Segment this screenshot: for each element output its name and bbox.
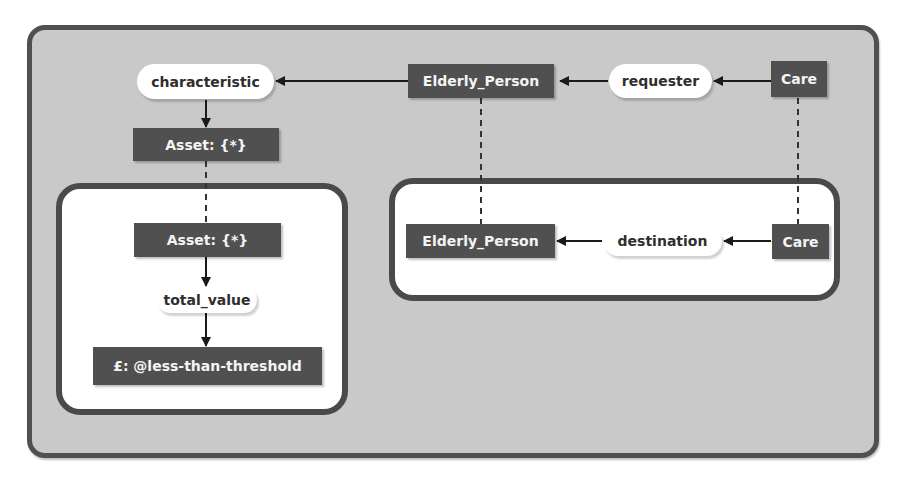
- concept-asset-inner[interactable]: Asset: {*}: [134, 223, 281, 257]
- relation-destination[interactable]: destination: [603, 226, 722, 256]
- relation-characteristic[interactable]: characteristic: [137, 64, 274, 99]
- relation-total-value-label: total_value: [163, 292, 250, 308]
- concept-care-inner-label: Care: [782, 234, 818, 250]
- concept-asset-inner-label: Asset: {*}: [167, 232, 248, 248]
- relation-requester-label: requester: [622, 73, 699, 89]
- concept-elderly-person-inner[interactable]: Elderly_Person: [406, 224, 555, 258]
- concept-elderly-person-inner-label: Elderly_Person: [422, 233, 538, 249]
- concept-elderly-person-outer-label: Elderly_Person: [423, 73, 539, 89]
- relation-requester[interactable]: requester: [609, 64, 712, 98]
- relation-characteristic-label: characteristic: [151, 74, 259, 90]
- concept-asset-outer[interactable]: Asset: {*}: [133, 128, 279, 161]
- concept-care-outer[interactable]: Care: [771, 61, 827, 97]
- concept-value-threshold-label: £: @less-than-threshold: [113, 358, 302, 374]
- concept-value-threshold[interactable]: £: @less-than-threshold: [93, 347, 322, 385]
- concept-elderly-person-outer[interactable]: Elderly_Person: [408, 64, 554, 98]
- relation-total-value[interactable]: total_value: [157, 287, 257, 313]
- relation-destination-label: destination: [618, 233, 708, 249]
- concept-care-outer-label: Care: [781, 71, 817, 87]
- concept-care-inner[interactable]: Care: [772, 224, 829, 259]
- concept-asset-outer-label: Asset: {*}: [165, 137, 246, 153]
